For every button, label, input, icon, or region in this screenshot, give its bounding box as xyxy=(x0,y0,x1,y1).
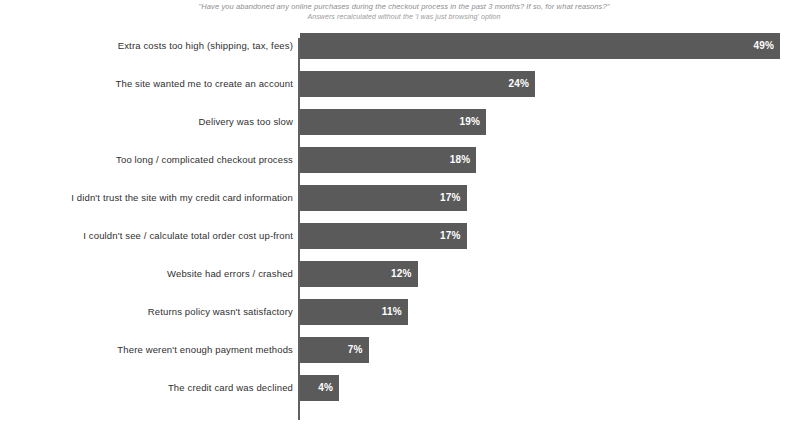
bar-row: There weren't enough payment methods7% xyxy=(0,337,808,375)
bar: 18% xyxy=(300,147,476,173)
bar-row: Website had errors / crashed12% xyxy=(0,261,808,299)
bar-chart-figure: "Have you abandoned any online purchases… xyxy=(0,0,808,441)
chart-header: "Have you abandoned any online purchases… xyxy=(0,2,808,22)
bar: 12% xyxy=(300,261,418,287)
bar-container: 11% xyxy=(300,299,408,325)
category-label: Too long / complicated checkout process xyxy=(116,147,293,173)
bar-row: The credit card was declined4% xyxy=(0,375,808,413)
bar: 24% xyxy=(300,71,535,97)
bar-container: 19% xyxy=(300,109,486,135)
bar: 4% xyxy=(300,375,339,401)
category-label: I couldn't see / calculate total order c… xyxy=(83,223,293,249)
category-label: There weren't enough payment methods xyxy=(117,337,293,363)
bar-row: The site wanted me to create an account2… xyxy=(0,71,808,109)
bar-row: Returns policy wasn't satisfactory11% xyxy=(0,299,808,337)
category-label: Extra costs too high (shipping, tax, fee… xyxy=(118,33,293,59)
category-label: I didn't trust the site with my credit c… xyxy=(71,185,293,211)
bar: 17% xyxy=(300,185,467,211)
bar-value-label: 17% xyxy=(440,223,461,249)
bar-container: 24% xyxy=(300,71,535,97)
bar-container: 4% xyxy=(300,375,339,401)
bar-container: 18% xyxy=(300,147,476,173)
category-label: The site wanted me to create an account xyxy=(116,71,293,97)
bar: 7% xyxy=(300,337,369,363)
bar: 19% xyxy=(300,109,486,135)
bar-value-label: 4% xyxy=(318,375,333,401)
bar-value-label: 18% xyxy=(450,147,471,173)
bar-container: 49% xyxy=(300,33,780,59)
bar-row: Too long / complicated checkout process1… xyxy=(0,147,808,185)
bar-value-label: 24% xyxy=(508,71,529,97)
bar-container: 17% xyxy=(300,185,467,211)
bar-row: Delivery was too slow19% xyxy=(0,109,808,147)
bar-value-label: 49% xyxy=(753,33,774,59)
plot-area: Extra costs too high (shipping, tax, fee… xyxy=(0,33,808,423)
chart-subtitle: Answers recalculated without the 'I was … xyxy=(0,12,808,22)
bar: 11% xyxy=(300,299,408,325)
bar-container: 17% xyxy=(300,223,467,249)
category-label: Returns policy wasn't satisfactory xyxy=(148,299,293,325)
bar-row: I couldn't see / calculate total order c… xyxy=(0,223,808,261)
bar: 17% xyxy=(300,223,467,249)
category-label: Delivery was too slow xyxy=(199,109,294,135)
bar-container: 12% xyxy=(300,261,418,287)
bar-value-label: 12% xyxy=(391,261,412,287)
bar: 49% xyxy=(300,33,780,59)
bar-value-label: 19% xyxy=(459,109,480,135)
bar-value-label: 17% xyxy=(440,185,461,211)
bar-container: 7% xyxy=(300,337,369,363)
category-label: Website had errors / crashed xyxy=(167,261,293,287)
bar-row: Extra costs too high (shipping, tax, fee… xyxy=(0,33,808,71)
bar-value-label: 7% xyxy=(348,337,363,363)
bar-rows: Extra costs too high (shipping, tax, fee… xyxy=(0,33,808,413)
bar-row: I didn't trust the site with my credit c… xyxy=(0,185,808,223)
bar-value-label: 11% xyxy=(382,299,402,325)
category-label: The credit card was declined xyxy=(168,375,293,401)
chart-title: "Have you abandoned any online purchases… xyxy=(0,2,808,12)
